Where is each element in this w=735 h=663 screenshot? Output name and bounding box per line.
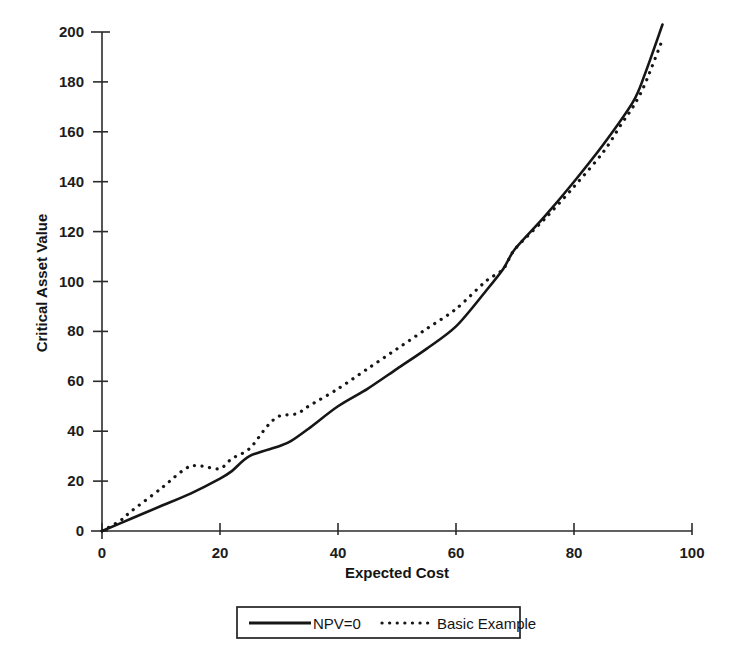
y-tick-label-180: 180 — [59, 73, 84, 90]
chart-legend: NPV=0 Basic Example — [237, 607, 536, 638]
legend-label-npv0: NPV=0 — [313, 615, 361, 632]
x-tick-label-80: 80 — [566, 544, 583, 561]
x-tick-label-100: 100 — [679, 544, 704, 561]
x-axis-title: Expected Cost — [345, 564, 449, 581]
legend-label-basic-example: Basic Example — [437, 615, 536, 632]
y-tick-label-40: 40 — [67, 422, 84, 439]
line-chart: 020406080100120140160180200 020406080100… — [0, 0, 735, 663]
y-axis-title: Critical Asset Value — [33, 214, 50, 353]
x-tick-label-0: 0 — [98, 544, 106, 561]
y-tick-label-140: 140 — [59, 173, 84, 190]
y-tick-label-20: 20 — [67, 472, 84, 489]
x-tick-label-20: 20 — [212, 544, 229, 561]
y-tick-label-200: 200 — [59, 23, 84, 40]
y-tick-label-120: 120 — [59, 223, 84, 240]
y-axis-title-group: Critical Asset Value — [33, 214, 50, 353]
x-tick-label-60: 60 — [448, 544, 465, 561]
y-tick-label-80: 80 — [67, 322, 84, 339]
y-tick-label-160: 160 — [59, 123, 84, 140]
chart-container: 020406080100120140160180200 020406080100… — [0, 0, 735, 663]
y-tick-label-0: 0 — [76, 522, 84, 539]
y-tick-label-100: 100 — [59, 273, 84, 290]
y-tick-label-60: 60 — [67, 372, 84, 389]
x-tick-label-40: 40 — [330, 544, 347, 561]
